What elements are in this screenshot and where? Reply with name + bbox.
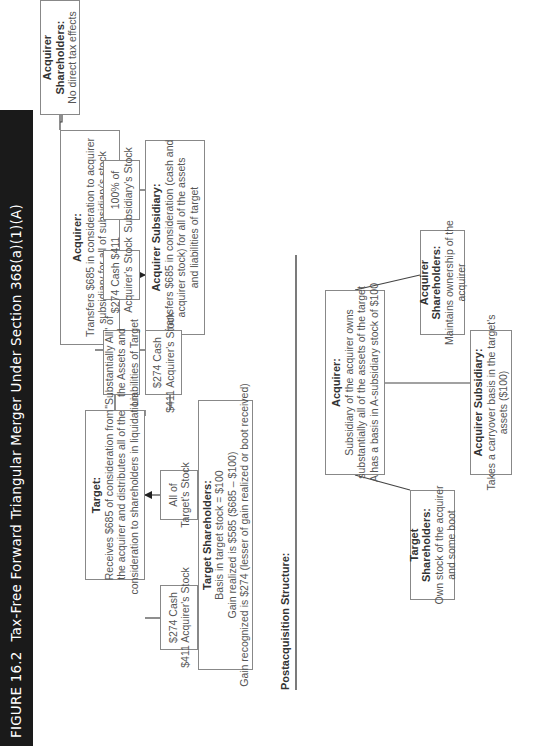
box-line: acquirer stock) for all of the assets	[175, 158, 188, 318]
box-line: All of	[167, 483, 180, 506]
box-line: A has a basis in A-subsidiary stock of $…	[368, 283, 381, 482]
post-target-shareholders-heading: Target Shareholders:	[408, 495, 433, 595]
acquirer-shareholders-box: Acquirer Shareholders: No direct tax eff…	[40, 0, 80, 115]
box-line: Subsidiary's Stock	[122, 147, 135, 232]
box-line: $274 Cash	[151, 337, 164, 388]
box-line: the Assets and	[115, 328, 128, 397]
box-line: substantially all of the assets of the t…	[355, 286, 368, 479]
box-line: Subsidiary of the acquirer owns	[343, 309, 356, 456]
target-shareholders-box: Target Shareholders: Basis in target sto…	[198, 400, 253, 670]
box-line: Takes a carryover basis in the target's	[485, 315, 498, 491]
box-line: Own stock of the acquirer	[433, 485, 446, 604]
target-heading: Target:	[90, 477, 103, 513]
box-line: Transfers $685 in consideration (cash an…	[163, 140, 176, 336]
box-line: 100% of	[109, 171, 122, 210]
figure-title: Tax-Free Forward Triangular Merger Under…	[8, 204, 24, 641]
box-line: Maintains ownership of the	[443, 220, 456, 345]
figure-number: FIGURE 16.2	[8, 651, 24, 738]
box-line: Receives $685 of consideration from	[103, 410, 116, 580]
subsidiary-stock-to-acquirer-box: 100% of Subsidiary's Stock	[103, 160, 140, 220]
box-line: Basis in target stock = $100	[213, 470, 226, 599]
box-line: $411 Acquirer's Stock	[179, 567, 192, 667]
box-line: Target's Stock	[179, 462, 192, 528]
box-line: Gain realized is $585 ($685 – $100)	[226, 452, 239, 619]
acquirer-heading: Acquirer:	[71, 213, 84, 262]
figure-canvas: FIGURE 16.2Tax-Free Forward Triangular M…	[0, 0, 551, 746]
target-shareholders-heading: Target Shareholders:	[201, 480, 214, 590]
post-acquirer-subsidiary-heading: Acquirer Subsidiary:	[472, 348, 485, 456]
box-line: and liabilities of target	[188, 187, 201, 289]
box-line: Gain recognized is $274 (lesser of gain …	[238, 383, 251, 687]
connector-lines	[0, 0, 551, 746]
post-acquirer-shareholders-box: Acquirer Shareholders: Maintains ownersh…	[420, 230, 465, 335]
box-line: $411 Acquirer's Stock	[164, 312, 177, 412]
target-box: Target: Receives $685 of consideration f…	[85, 410, 145, 580]
box-line: acquirer	[455, 264, 468, 302]
acquirer-subsidiary-box: Acquirer Subsidiary: Transfers $685 in c…	[145, 140, 205, 335]
box-line: Liabilities of Target	[128, 319, 141, 406]
post-acquirer-box: Acquirer: Subsidiary of the acquirer own…	[325, 290, 385, 475]
acquirer-subsidiary-heading: Acquirer Subsidiary:	[150, 183, 163, 291]
box-line: consideration to shareholders in liquida…	[128, 395, 141, 594]
post-acquirer-subsidiary-box: Acquirer Subsidiary: Takes a carryover b…	[470, 330, 512, 475]
assets-to-subsidiary-box: "Substantially All" of the Assets and Li…	[103, 330, 140, 395]
post-acquirer-heading: Acquirer:	[330, 358, 343, 407]
box-line: and some boot	[445, 510, 458, 579]
cash-stock-to-subsidiary-box: $274 Cash $411 Acquirer's Stock	[103, 250, 140, 300]
postacquisition-label: Postacquisition Structure:	[279, 552, 291, 690]
target-stock-box: All of Target's Stock	[160, 470, 198, 520]
box-line: Acquirer's Stock	[122, 237, 135, 313]
cash-stock-to-target-box: $274 Cash $411 Acquirer's Stock	[145, 330, 182, 395]
box-line: Transfers $685 in consideration to acqui…	[84, 138, 97, 337]
box-line: "Substantially All" of	[103, 316, 116, 409]
post-target-shareholders-box: Target Shareholders: Own stock of the ac…	[410, 490, 455, 600]
box-line: $274 Cash	[167, 592, 180, 643]
box-line: $274 Cash $411	[109, 237, 122, 313]
box-line: No direct tax effects	[66, 11, 79, 104]
post-acquirer-shareholders-heading: Acquirer Shareholders:	[418, 235, 443, 330]
box-line: assets ($100)	[497, 371, 510, 435]
acquirer-shareholders-heading: Acquirer Shareholders:	[41, 5, 66, 110]
cash-stock-to-shareholders-box: $274 Cash $411 Acquirer's Stock	[160, 585, 198, 650]
box-line: the acquirer and distributes all of the	[115, 410, 128, 579]
figure-title-bar: FIGURE 16.2Tax-Free Forward Triangular M…	[0, 110, 33, 746]
